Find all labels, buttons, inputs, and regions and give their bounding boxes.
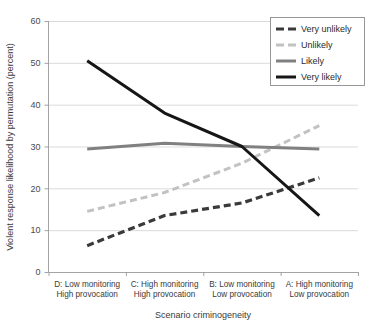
x-category-label: Low provocation <box>212 290 272 299</box>
y-tick-label: 40 <box>30 100 40 110</box>
legend-label-likely[interactable]: Likely <box>301 56 325 66</box>
x-category-label: Low provocation <box>290 290 350 299</box>
y-tick-label: 50 <box>30 58 40 68</box>
y-tick-label: 60 <box>30 16 40 26</box>
x-category-label: A: High monitoring <box>286 280 354 289</box>
legend-label-very-unlikely[interactable]: Very unlikely <box>301 24 352 34</box>
x-category-label: B: Low monitoring <box>209 280 275 289</box>
legend-label-very-likely[interactable]: Very likely <box>301 72 342 82</box>
legend-label-unlikely[interactable]: Unlikely <box>301 40 333 50</box>
x-category-label: C: High monitoring <box>131 280 199 289</box>
y-axis-title: Violent response likelihood by permutati… <box>5 43 15 250</box>
y-tick-label: 30 <box>30 142 40 152</box>
x-category-label: High provocation <box>56 290 118 299</box>
y-tick-label: 0 <box>35 267 40 277</box>
x-axis-title: Scenario criminogeneity <box>155 310 252 320</box>
chart-container: Violent response likelihood by permutati… <box>0 0 372 325</box>
chart-legend[interactable]: Very unlikelyUnlikelyLikelyVery likely <box>271 18 365 86</box>
x-category-label: High provocation <box>134 290 196 299</box>
y-tick-label: 10 <box>30 225 40 235</box>
x-category-label: D: Low monitoring <box>54 280 120 289</box>
y-tick-label: 20 <box>30 184 40 194</box>
line-chart: Violent response likelihood by permutati… <box>0 0 372 325</box>
